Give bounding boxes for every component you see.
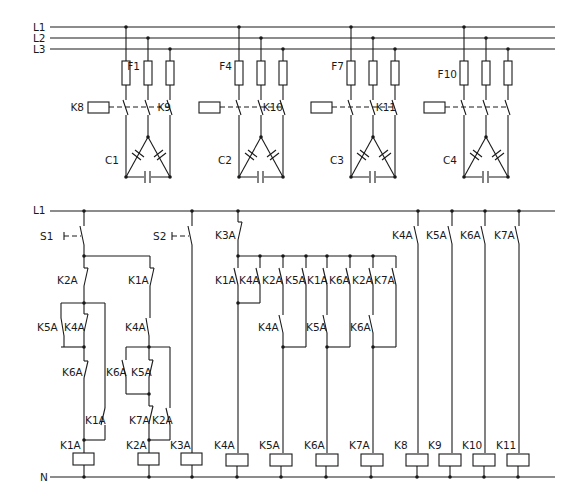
fuse-label: F10 — [438, 68, 457, 80]
contact-bus-6: K6A — [329, 274, 351, 286]
contactor-label-k9: K9 — [157, 101, 171, 113]
coil-label-k11: K11 — [496, 439, 516, 451]
contact-right-k7a: K7A — [494, 229, 516, 241]
contact-k1a-hold: K1A — [85, 414, 107, 426]
contactor-label: K8 — [70, 101, 84, 113]
contactor-coil-icon — [424, 102, 445, 113]
fuse-label: F7 — [331, 60, 344, 72]
branch-k2a: K1A K4A K6A K5A K7A K2A K2A — [106, 256, 174, 479]
contact-bus-3: K2A — [262, 274, 284, 286]
contact-k3a: K3A — [215, 229, 237, 241]
contact-bus-2: K4A — [239, 274, 261, 286]
coil-label-k10: K10 — [462, 439, 482, 451]
fuse-label: F4 — [219, 60, 232, 72]
coil-icon — [138, 453, 159, 465]
contact-bus-8: K7A — [374, 274, 396, 286]
branch-k3a: S2 K3A — [153, 209, 202, 479]
contact-bus-row: K1A K4A K2A K5A K1A K6A K2A K7A K4A K5A — [215, 256, 396, 453]
coil-icon — [316, 454, 338, 466]
coil-icon — [73, 453, 94, 465]
coil-icon — [226, 454, 248, 466]
contact-bus-5: K1A — [307, 274, 329, 286]
contact-k2a: K2A — [57, 274, 79, 286]
contact-k5a-mid: K5A — [131, 366, 153, 378]
contactor-coil-icon — [88, 102, 109, 113]
contact-k4a-start: K4A — [125, 321, 147, 333]
schematic-diagram: L1 L2 L3 F1 K8 C1 — [0, 0, 566, 501]
contact-right-k4a: K4A — [392, 229, 414, 241]
contact-bus-7: K2A — [352, 274, 374, 286]
capacitor-label: C4 — [443, 154, 457, 166]
contact-row2-k4a: K4A — [258, 321, 280, 333]
coil-icon — [439, 454, 461, 466]
capacitor-label: C2 — [218, 154, 232, 166]
coil-label-k4a: K4A — [214, 439, 236, 451]
fuse-icon — [482, 61, 490, 85]
coil-label-k9: K9 — [428, 439, 442, 451]
contact-k7a: K7A — [129, 414, 151, 426]
switch-s2-label: S2 — [153, 230, 166, 242]
coil-icon — [473, 454, 495, 466]
contact-k4a: K4A — [64, 321, 86, 333]
coil-row: K4A K5A K6A K7A K8 K9 K10 K11 — [214, 439, 529, 479]
contact-k6a-mid: K6A — [106, 366, 128, 378]
contact-row2-k6a: K6A — [350, 321, 372, 333]
contact-k5a: K5A — [37, 321, 59, 333]
contact-k1a-interlock: K1A — [128, 274, 150, 286]
coil-label-k6a: K6A — [304, 439, 326, 451]
contactor-label-k10: K10 — [263, 101, 283, 113]
fuse-icon — [391, 61, 399, 85]
contactor-coil-icon — [311, 102, 332, 113]
capacitor-label: C3 — [330, 154, 344, 166]
fuse-icon — [257, 61, 265, 85]
fuse-icon — [279, 61, 287, 85]
line-label-l3: L3 — [33, 43, 46, 55]
contactor-label-k11: K11 — [376, 101, 396, 113]
contact-right-k5a: K5A — [426, 229, 448, 241]
coil-label-k3a: K3A — [170, 439, 192, 451]
coil-label-k7a: K7A — [349, 439, 371, 451]
contact-bus-4: K5A — [285, 274, 307, 286]
supply-label: L1 — [33, 204, 46, 216]
coil-icon — [406, 454, 428, 466]
contact-k6a: K6A — [62, 366, 84, 378]
coil-label-k8: K8 — [394, 439, 408, 451]
coil-icon — [181, 453, 202, 465]
coil-label-k2a: K2A — [126, 439, 148, 451]
right-contacts: K4A K5A K6A K7A — [392, 209, 521, 453]
fuse-icon — [144, 61, 152, 85]
power-bus: L1 L2 L3 — [33, 21, 555, 55]
coil-label-k1a: K1A — [60, 439, 82, 451]
fuse-icon — [369, 61, 377, 85]
fuse-icon — [235, 61, 243, 85]
fuse-label: F1 — [127, 60, 140, 72]
contact-bus-1: K1A — [215, 274, 237, 286]
schematic-canvas: L1 L2 L3 F1 K8 C1 — [0, 0, 566, 501]
contact-row2-k5a: K5A — [306, 321, 328, 333]
branch-k3a-bus: K3A — [215, 209, 396, 258]
contactor-coil-icon — [199, 102, 220, 113]
contact-k2a-hold: K2A — [152, 414, 174, 426]
switch-s1-label: S1 — [40, 230, 53, 242]
fuse-icon — [460, 61, 468, 85]
fuse-icon — [347, 61, 355, 85]
coil-icon — [507, 454, 529, 466]
neutral-label: N — [40, 471, 48, 483]
fuse-icon — [166, 61, 174, 85]
coil-label-k5a: K5A — [259, 439, 281, 451]
coil-icon — [361, 454, 383, 466]
coil-icon — [270, 454, 292, 466]
contact-right-k6a: K6A — [460, 229, 482, 241]
capacitor-label: C1 — [105, 154, 119, 166]
fuse-icon — [504, 61, 512, 85]
